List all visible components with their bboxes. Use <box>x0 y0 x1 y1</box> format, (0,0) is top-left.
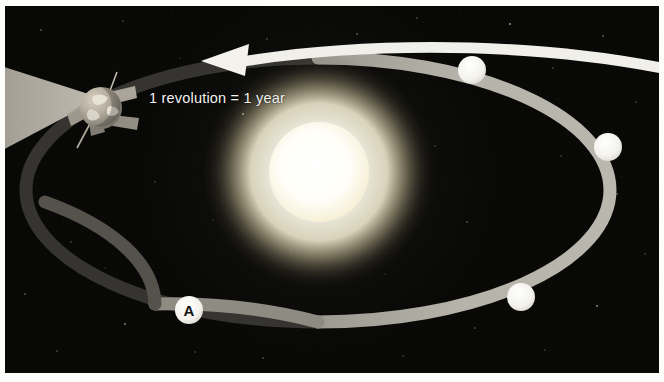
marker-position-top-right[interactable] <box>458 56 486 84</box>
revolution-caption: 1 revolution = 1 year <box>149 90 285 106</box>
orbit-diagram-figure: A 1 revolution = 1 year <box>0 0 664 382</box>
marker-position-bottom-right[interactable] <box>507 283 535 311</box>
marker-position-right[interactable] <box>594 133 622 161</box>
marker-position-a[interactable] <box>175 296 203 324</box>
sun-core <box>269 122 369 222</box>
diagram-vector-layer <box>5 6 659 373</box>
space-background: A 1 revolution = 1 year <box>5 6 659 373</box>
